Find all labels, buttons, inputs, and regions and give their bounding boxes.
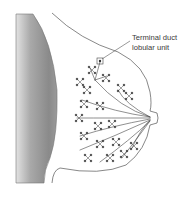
tdlu-label: Terminal duct lobular unit — [132, 33, 177, 52]
tdlu-label-line2: lobular unit — [132, 43, 177, 53]
tdlu-label-line1: Terminal duct — [132, 33, 177, 43]
chest-wall — [16, 14, 57, 183]
duct-tree — [77, 62, 150, 162]
lobule-cluster — [76, 78, 84, 86]
lobules — [75, 66, 138, 162]
breast-anatomy-diagram: Terminal duct lobular unit — [0, 0, 192, 201]
